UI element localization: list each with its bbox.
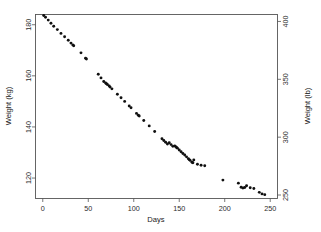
y-axis-right-ticks: 250300350400 <box>278 15 291 201</box>
data-points-layer <box>42 14 266 196</box>
data-point <box>196 163 199 166</box>
y-tick-label-left: 140 <box>24 121 33 133</box>
data-point <box>60 32 63 35</box>
data-point <box>191 161 194 164</box>
y-axis-left-ticks: 120140160180 <box>24 19 35 184</box>
y-tick-label-left: 180 <box>24 19 33 31</box>
y-tick-label-right: 350 <box>281 73 290 85</box>
data-point <box>153 130 156 133</box>
data-point <box>52 25 55 28</box>
data-point <box>237 182 240 185</box>
y-axis-right-title: Weight (lb) <box>303 87 312 124</box>
data-point <box>142 119 145 122</box>
x-tick-label: 150 <box>173 204 185 213</box>
data-point <box>245 184 248 187</box>
data-point <box>138 115 141 118</box>
x-tick-label: 250 <box>264 204 276 213</box>
x-axis-ticks: 050100150200250 <box>41 199 276 213</box>
data-point <box>261 192 264 195</box>
y-tick-label-right: 400 <box>281 15 290 27</box>
weight-loss-scatter-chart: 050100150200250 120140160180 25030035040… <box>0 0 321 232</box>
x-tick-label: 200 <box>219 204 231 213</box>
data-point <box>200 164 203 167</box>
y-tick-label-left: 120 <box>24 172 33 184</box>
data-point <box>56 28 59 31</box>
data-point <box>80 51 83 54</box>
data-point <box>123 100 126 103</box>
data-point <box>130 106 133 109</box>
data-point <box>44 16 47 19</box>
x-tick-label: 100 <box>128 204 140 213</box>
data-point <box>116 93 119 96</box>
data-point <box>192 158 195 161</box>
data-point <box>63 35 66 38</box>
data-point <box>97 73 100 76</box>
data-point <box>258 191 261 194</box>
data-point <box>148 124 151 127</box>
data-point <box>249 186 252 189</box>
y-axis-left-title: Weight (kg) <box>4 86 13 125</box>
x-axis-title: Days <box>147 215 165 224</box>
data-point <box>50 22 53 25</box>
data-point <box>72 44 75 47</box>
y-tick-label-left: 160 <box>24 70 33 82</box>
data-point <box>221 179 224 182</box>
data-point <box>47 19 50 22</box>
data-point <box>252 187 255 190</box>
data-point <box>263 193 266 196</box>
chart-canvas: 050100150200250 120140160180 25030035040… <box>0 0 321 232</box>
data-point <box>110 87 113 90</box>
y-tick-label-right: 300 <box>281 131 290 143</box>
y-tick-label-right: 250 <box>281 189 290 201</box>
x-tick-label: 50 <box>84 204 92 213</box>
data-point <box>85 58 88 61</box>
data-point <box>67 39 70 42</box>
data-point <box>203 164 206 167</box>
x-tick-label: 0 <box>41 204 45 213</box>
data-point <box>100 76 103 79</box>
data-point <box>120 96 123 99</box>
